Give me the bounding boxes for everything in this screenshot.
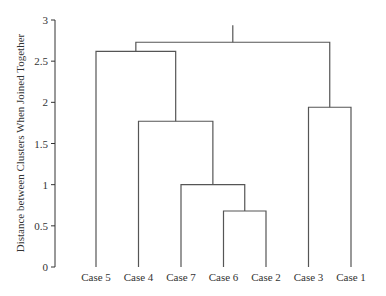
- leaf-label: Case 7: [166, 271, 196, 283]
- y-tick-label: 0.5: [34, 220, 48, 232]
- dendrogram-link: [139, 121, 213, 267]
- y-axis: 00.511.522.53: [34, 14, 55, 273]
- leaf-label: Case 1: [336, 271, 366, 283]
- y-tick-label: 0: [43, 261, 49, 273]
- dendrogram-link: [224, 211, 267, 267]
- y-tick-label: 2.5: [34, 55, 48, 67]
- dendrogram-chart: 00.511.522.53 Case 5Case 4Case 7Case 6Ca…: [0, 0, 386, 296]
- dendrogram-link: [96, 51, 176, 267]
- dendrogram-link: [136, 42, 330, 107]
- y-tick-label: 2: [43, 96, 49, 108]
- leaf-labels: Case 5Case 4Case 7Case 6Case 2Case 3Case…: [81, 271, 366, 283]
- y-tick-label: 1: [43, 179, 49, 191]
- leaf-label: Case 3: [294, 271, 324, 283]
- leaf-label: Case 6: [209, 271, 239, 283]
- dendrogram-link: [309, 107, 352, 267]
- y-tick-label: 3: [43, 14, 49, 26]
- y-axis-label: Distance between Clusters When Joined To…: [14, 33, 26, 252]
- dendrogram-links: [96, 25, 351, 267]
- leaf-label: Case 5: [81, 271, 111, 283]
- leaf-label: Case 2: [251, 271, 281, 283]
- dendrogram-link: [181, 185, 245, 267]
- y-tick-label: 1.5: [34, 138, 48, 150]
- leaf-label: Case 4: [124, 271, 154, 283]
